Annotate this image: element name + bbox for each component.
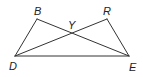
segment-be: [37, 19, 129, 56]
label-r: R: [103, 5, 111, 17]
segment-bd: [15, 19, 37, 56]
geometry-diagram: B R Y D E: [0, 0, 143, 77]
segment-rd: [15, 19, 107, 56]
label-b: B: [34, 5, 41, 17]
label-y: Y: [68, 19, 76, 31]
label-d: D: [9, 60, 17, 72]
label-e: E: [129, 61, 137, 73]
segment-re: [107, 19, 129, 56]
